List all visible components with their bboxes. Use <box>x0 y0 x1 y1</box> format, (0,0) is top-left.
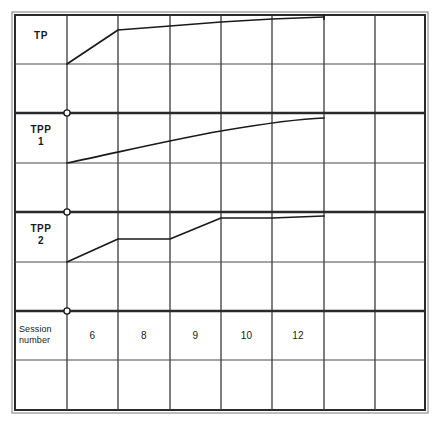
trace-tpp2 <box>67 216 324 262</box>
origin-marker-session <box>64 308 70 314</box>
grid-and-traces <box>0 0 439 430</box>
panel-divider-lines <box>15 113 425 311</box>
trace-tp <box>67 17 324 64</box>
trace-tpp1 <box>67 118 324 163</box>
origin-marker-tpp1 <box>64 110 70 116</box>
origin-marker-tpp2 <box>64 209 70 215</box>
figure-container: TP TPP 1 TPP 2 Session number 6 8 9 10 1… <box>0 0 439 430</box>
